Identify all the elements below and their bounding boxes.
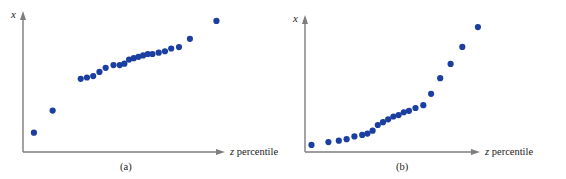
- data-point-group-b: [308, 24, 481, 148]
- data-point: [50, 108, 56, 114]
- x-axis-label-b: z percentile: [485, 147, 533, 158]
- data-point: [390, 113, 396, 119]
- chart-panel-a: x z percentile (a): [0, 0, 283, 179]
- data-point: [359, 132, 365, 138]
- data-point: [380, 119, 386, 125]
- y-axis-arrowhead-a: [20, 11, 26, 20]
- data-point: [84, 74, 90, 80]
- data-point: [396, 112, 402, 118]
- data-point: [103, 65, 109, 71]
- x-axis-label-a: z percentile: [230, 147, 278, 158]
- data-point: [149, 51, 155, 57]
- data-point: [406, 108, 412, 114]
- data-point: [420, 102, 426, 108]
- data-point-group-a: [31, 18, 220, 136]
- data-point: [168, 45, 174, 51]
- data-point: [325, 139, 331, 145]
- data-point: [31, 130, 37, 136]
- data-point: [90, 73, 96, 79]
- y-axis-label-b: x: [293, 13, 298, 24]
- data-point: [412, 105, 418, 111]
- data-point: [308, 142, 314, 148]
- data-point: [459, 44, 465, 50]
- data-point: [336, 138, 342, 144]
- data-point: [385, 116, 391, 122]
- data-point: [448, 61, 454, 67]
- data-point: [428, 91, 434, 97]
- data-point: [437, 75, 443, 81]
- data-point: [375, 122, 381, 128]
- data-point: [364, 130, 370, 136]
- data-point: [156, 50, 162, 56]
- data-point: [187, 36, 193, 42]
- data-point: [213, 18, 219, 24]
- x-axis-arrowhead-b: [471, 149, 480, 155]
- data-point: [370, 128, 376, 134]
- x-axis-label-text-b: percentile: [489, 146, 533, 157]
- data-point: [176, 44, 182, 50]
- data-point: [401, 109, 407, 115]
- data-point: [162, 48, 168, 54]
- x-axis-arrowhead-a: [216, 149, 225, 155]
- data-point: [475, 24, 481, 30]
- data-point: [121, 61, 127, 67]
- data-point: [110, 62, 116, 68]
- panel-caption-b: (b): [396, 162, 408, 173]
- x-axis-label-text-a: percentile: [234, 146, 278, 157]
- panel-caption-a: (a): [120, 162, 132, 173]
- y-axis-arrowhead-b: [302, 15, 308, 24]
- y-axis-label-a: x: [11, 9, 16, 20]
- figure-normal-probability-plots: x z percentile (a) x z percentile (b): [0, 0, 566, 179]
- chart-panel-b: x z percentile (b): [283, 0, 566, 179]
- data-point: [351, 133, 357, 139]
- data-point: [96, 69, 102, 75]
- data-point: [78, 76, 84, 82]
- data-point: [344, 136, 350, 142]
